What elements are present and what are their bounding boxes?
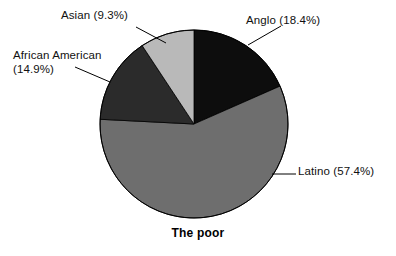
pie-label-african-american: African American (14.9%) [13, 49, 102, 76]
pie-label-asian: Asian (9.3%) [61, 9, 128, 23]
pie-label-asian-text: Asian (9.3%) [61, 9, 128, 21]
leader-line-anglo [248, 26, 281, 45]
pie-label-latino-text: Latino (57.4%) [298, 165, 374, 177]
pie-label-anglo: Anglo (18.4%) [246, 14, 320, 28]
chart-title: The poor [0, 226, 396, 240]
pie-label-anglo-text: Anglo (18.4%) [246, 14, 320, 26]
pie-chart-canvas [0, 0, 396, 256]
pie-label-african-american-line1: African American [13, 49, 102, 63]
pie-slices [100, 30, 288, 218]
pie-label-african-american-line2: (14.9%) [13, 63, 102, 77]
pie-chart-figure: Asian (9.3%) Anglo (18.4%) African Ameri… [0, 0, 396, 256]
pie-label-latino: Latino (57.4%) [298, 165, 374, 179]
